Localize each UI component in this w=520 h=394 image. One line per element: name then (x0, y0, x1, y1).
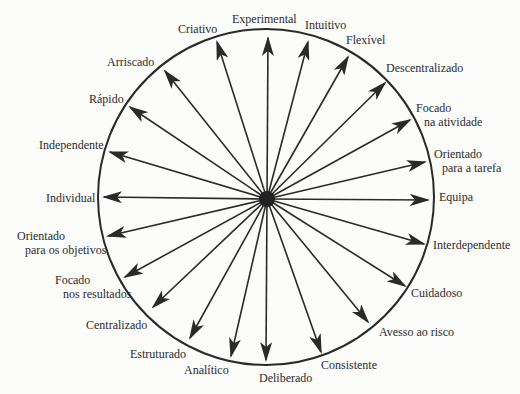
label-orientado-para-a-tarefa: Orientadopara a tarefa (434, 147, 501, 175)
label-line: Analítico (184, 363, 229, 377)
label-line: Flexível (346, 33, 385, 47)
label-descentralizado: Descentralizado (386, 61, 463, 75)
label-line: Orientado (17, 229, 106, 243)
label-line: Consistente (321, 358, 377, 372)
label-line: Individual (46, 191, 95, 205)
label-analitico: Analítico (184, 363, 229, 377)
label-line: para a tarefa (434, 161, 501, 175)
label-cuidadoso: Cuidadoso (411, 286, 462, 300)
label-line: Experimental (232, 12, 297, 26)
label-line: nos resultados (55, 287, 131, 301)
label-flexivel: Flexível (346, 33, 385, 47)
label-interdependente: Interdependente (433, 238, 510, 252)
label-avesso-ao-risco: Avesso ao risco (379, 325, 454, 339)
label-intuitivo: Intuitivo (305, 18, 346, 32)
center-hub (259, 191, 275, 207)
arrow-analitico (231, 199, 267, 356)
label-individual: Individual (46, 191, 95, 205)
label-estruturado: Estruturado (130, 347, 186, 361)
arrow-cuidadoso (267, 199, 405, 286)
label-line: Intuitivo (305, 18, 346, 32)
arrow-experimental (267, 38, 268, 199)
arrow-arriscado (165, 71, 267, 199)
label-line: Rápido (89, 92, 124, 106)
label-orientado-para-os-objetivos: Orientadopara os objetivos (17, 229, 106, 257)
label-line: Equipa (439, 190, 473, 204)
arrow-deliberado (266, 199, 267, 360)
arrow-interdependente (267, 199, 424, 244)
label-line: Cuidadoso (411, 286, 462, 300)
arrow-criativo (217, 42, 267, 199)
label-line: Interdependente (433, 238, 510, 252)
label-line: Independente (39, 138, 104, 152)
label-line: Descentralizado (386, 61, 463, 75)
label-line: Focado (55, 273, 131, 287)
label-centralizado: Centralizado (86, 318, 147, 332)
label-independente: Independente (39, 138, 104, 152)
label-line: Orientado (434, 147, 501, 161)
label-line: Deliberado (259, 371, 312, 385)
arrow-avesso-ao-risco (267, 199, 368, 322)
label-arriscado: Arriscado (107, 55, 154, 69)
label-consistente: Consistente (321, 358, 377, 372)
label-line: Estruturado (130, 347, 186, 361)
label-line: Arriscado (107, 55, 154, 69)
label-deliberado: Deliberado (259, 371, 312, 385)
label-equipa: Equipa (439, 190, 473, 204)
label-experimental: Experimental (232, 12, 297, 26)
arrow-consistente (267, 199, 321, 352)
arrow-rapido (130, 107, 267, 199)
label-line: para os objetivos (17, 243, 106, 257)
label-line: Centralizado (86, 318, 147, 332)
label-line: Criativo (178, 22, 217, 36)
label-rapido: Rápido (89, 92, 124, 106)
arrow-orientado-para-os-objetivos (108, 199, 267, 236)
label-focado-na-atividade: Focadona atividade (416, 101, 482, 129)
arrow-descentralizado (267, 83, 385, 199)
label-line: Avesso ao risco (379, 325, 454, 339)
label-line: Focado (416, 101, 482, 115)
arrow-focado-na-atividade (267, 120, 410, 199)
label-focado-nos-resultados: Focadonos resultados (55, 273, 131, 301)
arrow-individual (104, 197, 267, 199)
label-criativo: Criativo (178, 22, 217, 36)
arrow-intuitivo (267, 42, 308, 199)
arrow-independente (110, 152, 267, 199)
arrow-flexivel (267, 57, 348, 199)
label-line: na atividade (416, 115, 482, 129)
arrow-equipa (267, 199, 428, 200)
arrow-orientado-para-a-tarefa (267, 162, 425, 199)
